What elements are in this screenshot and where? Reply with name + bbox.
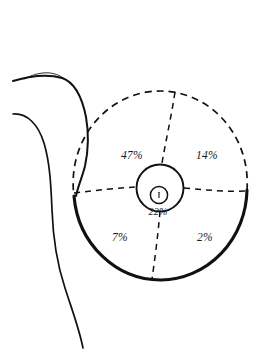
label-upper-outer: 47% [121, 149, 143, 161]
label-lower-outer: 7% [112, 231, 128, 243]
label-upper-inner: 14% [196, 149, 218, 161]
diagram-canvas: 47% 14% 22% 7% 2% [0, 0, 274, 353]
breast-quadrant-diagram: 47% 14% 22% 7% 2% [0, 0, 274, 353]
label-central: 22% [149, 206, 168, 217]
background [0, 0, 274, 353]
label-lower-inner: 2% [197, 231, 213, 243]
